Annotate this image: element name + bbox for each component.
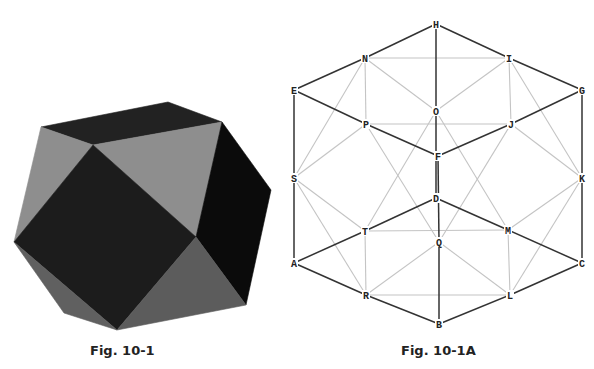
light-edge-PQ	[366, 124, 439, 242]
dark-edge-HI	[436, 24, 509, 58]
light-edge-JK	[511, 124, 582, 178]
node-label-E: E	[291, 86, 297, 97]
node-label-B: B	[436, 320, 442, 331]
light-edge-IJ	[509, 58, 511, 124]
dark-edge-BL	[439, 295, 510, 324]
node-label-A: A	[291, 259, 297, 270]
dark-edge-HN	[365, 24, 436, 58]
dark-edge-TD	[365, 198, 436, 231]
light-edge-ML	[508, 230, 510, 295]
node-label-P: P	[363, 120, 369, 131]
node-label-D: D	[433, 194, 439, 205]
light-edge-KM	[508, 178, 582, 230]
light-edge-RQ	[366, 242, 439, 295]
light-edge-TM	[365, 230, 508, 231]
dark-edge-AR	[294, 263, 366, 295]
dark-edge-LC	[510, 263, 582, 295]
light-edge-TR	[365, 231, 366, 295]
light-edge-JQ	[439, 124, 511, 242]
dark-edge-MC	[508, 230, 582, 263]
light-edge-ST	[294, 178, 365, 231]
node-label-K: K	[579, 174, 585, 185]
node-label-M: M	[505, 226, 511, 237]
light-edge-SR	[294, 178, 366, 295]
node-label-Q: Q	[436, 238, 442, 249]
node-label-R: R	[363, 291, 369, 302]
node-label-N: N	[362, 54, 368, 65]
light-edge-QL	[439, 242, 510, 295]
dark-edge-IG	[509, 58, 582, 90]
light-edge-NO	[365, 58, 436, 111]
caption-fig-10-1a: Fig. 10-1A	[401, 343, 476, 358]
node-label-H: H	[433, 20, 439, 31]
dark-edge-RB	[366, 295, 439, 324]
node-label-F: F	[435, 152, 441, 163]
node-label-G: G	[579, 86, 585, 97]
figure-10-1a-wireframe: HNIEGOPJFSKDTMQACRLB	[0, 0, 594, 340]
node-label-T: T	[362, 227, 368, 238]
node-label-L: L	[507, 291, 513, 302]
node-label-I: I	[506, 54, 512, 65]
light-edge-PS	[294, 124, 366, 178]
node-label-C: C	[579, 259, 585, 270]
node-label-S: S	[291, 174, 297, 185]
node-label-O: O	[433, 107, 439, 118]
dark-edge-EP	[294, 90, 366, 124]
light-edge-OM	[436, 111, 508, 230]
caption-fig-10-1: Fig. 10-1	[90, 343, 155, 358]
node-label-J: J	[508, 120, 514, 131]
dark-edge-DM	[436, 198, 508, 230]
dark-edge-PF	[366, 124, 438, 156]
light-edge-IK	[509, 58, 582, 178]
light-edge-NP	[365, 58, 366, 124]
light-edge-OI	[436, 58, 509, 111]
dark-edge-NE	[294, 58, 365, 90]
dark-edge-FJ	[438, 124, 511, 156]
